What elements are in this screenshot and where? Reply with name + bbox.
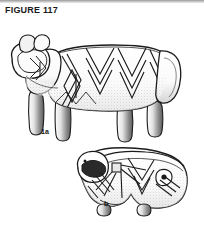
figure-page: FIGURE 117 bbox=[0, 0, 204, 229]
page-title: FIGURE 117 bbox=[5, 5, 58, 15]
figure-1a-drawing bbox=[0, 18, 204, 229]
figure-1a-label: 1a bbox=[41, 128, 49, 135]
figure-b-drawing bbox=[76, 148, 192, 216]
figure-b-label: b bbox=[104, 200, 108, 207]
figure-1a-head bbox=[12, 35, 61, 97]
scan-edge-bar bbox=[0, 0, 204, 3]
figure-plate: 1a b bbox=[0, 18, 204, 229]
